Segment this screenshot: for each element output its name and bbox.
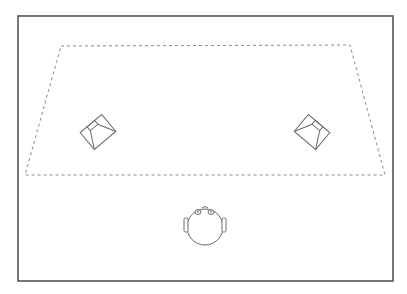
- right-ear-icon: [222, 218, 226, 232]
- listening-room-diagram: [0, 0, 407, 294]
- left-ear-icon: [184, 218, 188, 232]
- diagram-canvas: [0, 0, 407, 294]
- listener-head-icon: [184, 207, 226, 246]
- left-speaker-icon: [80, 115, 116, 150]
- right-speaker-icon: [294, 115, 330, 150]
- listening-area-trapezoid: [25, 45, 385, 175]
